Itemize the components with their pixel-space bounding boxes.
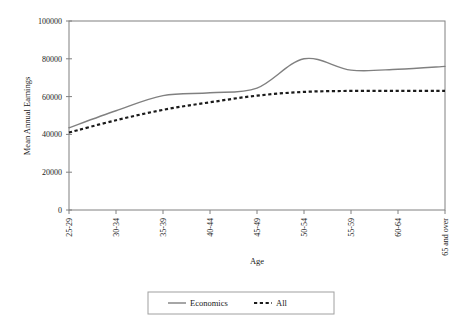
x-axis-title: Age xyxy=(250,256,264,266)
legend-label-economics: Economics xyxy=(190,298,228,308)
x-tick-label: 45-49 xyxy=(253,218,262,237)
y-tick-label: 80000 xyxy=(42,55,62,64)
y-tick-label: 100000 xyxy=(38,17,62,26)
x-tick-label: 35-39 xyxy=(159,218,168,237)
y-axis-title: Mean Annual Earnings xyxy=(22,77,32,155)
series-layer xyxy=(69,58,445,132)
y-axis-ticks: 020000400006000080000100000 xyxy=(38,17,72,215)
x-axis-ticks: 25-2930-3435-3940-4445-4950-5455-5960-64… xyxy=(65,210,450,256)
series-line-all xyxy=(69,91,445,133)
legend-label-all: All xyxy=(276,298,288,308)
y-tick-label: 40000 xyxy=(42,130,62,139)
x-tick-label: 40-44 xyxy=(206,218,215,237)
y-tick-label: 60000 xyxy=(42,93,62,102)
x-tick-label: 55-59 xyxy=(347,218,356,237)
x-tick-label: 50-54 xyxy=(300,218,309,237)
plot-frame xyxy=(69,21,445,210)
x-tick-label: 30-34 xyxy=(112,218,121,237)
chart-figure: 020000400006000080000100000 25-2930-3435… xyxy=(0,0,474,324)
y-tick-label: 20000 xyxy=(42,168,62,177)
x-tick-label: 60-64 xyxy=(394,218,403,237)
y-tick-label: 0 xyxy=(58,206,62,215)
x-tick-label: 65 and over xyxy=(441,218,450,256)
x-tick-label: 25-29 xyxy=(65,218,74,237)
line-chart: 020000400006000080000100000 25-2930-3435… xyxy=(0,0,474,324)
chart-legend: EconomicsAll xyxy=(148,292,334,314)
plot-area-border xyxy=(69,21,445,210)
